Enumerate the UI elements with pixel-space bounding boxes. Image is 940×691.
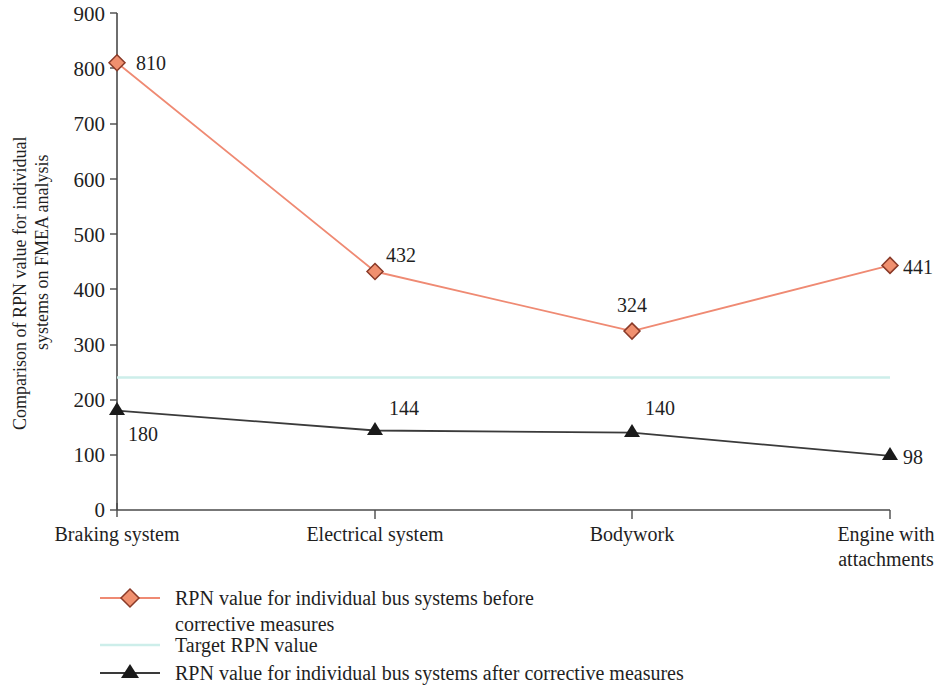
- x-category-label-3-line1: Engine with: [837, 523, 934, 546]
- y-tick-label-400: 400: [74, 278, 106, 302]
- data-label-before-1: 432: [386, 244, 416, 266]
- legend: RPN value for individual bus systems bef…: [100, 587, 684, 685]
- marker-before-3: [882, 257, 898, 273]
- marker-after-1: [367, 422, 383, 435]
- marker-after-3: [882, 447, 898, 460]
- y-tick-label-300: 300: [74, 333, 106, 357]
- legend-label-target: Target RPN value: [175, 634, 318, 657]
- x-category-label-1: Electrical system: [306, 523, 444, 546]
- series-line-before-corrective: [117, 63, 890, 331]
- legend-diamond-icon: [121, 589, 139, 607]
- line-chart: Comparison of RPN value for individual s…: [0, 0, 940, 691]
- legend-item-target-rpn[interactable]: Target RPN value: [100, 634, 318, 657]
- y-axis-title-line2: systems on FMEA analysis: [32, 154, 52, 350]
- x-category-label-2: Bodywork: [590, 523, 674, 546]
- data-label-after-0: 180: [128, 423, 158, 445]
- legend-item-before-corrective[interactable]: RPN value for individual bus systems bef…: [100, 587, 534, 635]
- legend-label-before-line1: RPN value for individual bus systems bef…: [175, 587, 534, 610]
- y-tick-label-800: 800: [74, 57, 106, 81]
- legend-label-after: RPN value for individual bus systems aft…: [175, 662, 684, 685]
- marker-after-2: [624, 424, 640, 437]
- y-tick-label-700: 700: [74, 112, 106, 136]
- data-label-after-3: 98: [903, 446, 923, 468]
- data-label-after-1: 144: [389, 397, 419, 419]
- legend-item-after-corrective[interactable]: RPN value for individual bus systems aft…: [100, 662, 684, 685]
- legend-triangle-icon: [121, 664, 139, 678]
- x-category-label-0: Braking system: [55, 523, 180, 546]
- legend-label-before-line2: corrective measures: [175, 613, 335, 635]
- y-tick-label-600: 600: [74, 168, 106, 192]
- y-tick-label-500: 500: [74, 223, 106, 247]
- chart-figure: Comparison of RPN value for individual s…: [0, 0, 940, 691]
- data-label-before-2: 324: [617, 294, 647, 316]
- series-line-after-corrective: [117, 411, 890, 456]
- marker-before-2: [624, 323, 640, 339]
- data-label-before-3: 441: [903, 256, 933, 278]
- y-axis-title-line1: Comparison of RPN value for individual: [10, 137, 30, 430]
- y-tick-label-200: 200: [74, 388, 106, 412]
- y-tick-label-0: 0: [95, 498, 106, 522]
- y-tick-label-900: 900: [74, 2, 106, 26]
- marker-after-0: [109, 402, 125, 415]
- data-label-after-2: 140: [645, 397, 675, 419]
- y-tick-label-100: 100: [74, 443, 106, 467]
- data-label-before-0: 810: [136, 52, 166, 74]
- x-category-label-3-line2: attachments: [838, 548, 934, 570]
